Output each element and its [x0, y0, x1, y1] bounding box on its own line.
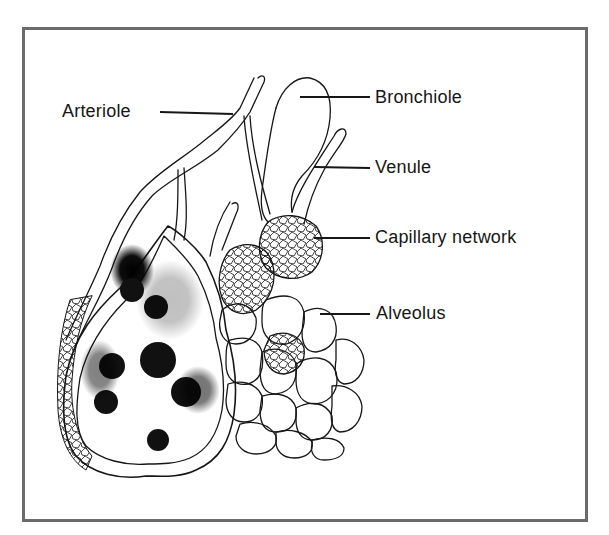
- label-arteriole: Arteriole: [62, 101, 131, 122]
- label-bronchiole: Bronchiole: [375, 87, 462, 108]
- alveolus-illustration: [0, 0, 609, 535]
- alveolar-sacs-dark: [80, 244, 220, 451]
- label-capillary-network: Capillary network: [375, 227, 516, 248]
- leader-arteriole: [160, 112, 233, 114]
- venule-shape: [292, 129, 346, 224]
- label-venule: Venule: [375, 157, 431, 178]
- alveoli-cluster: [220, 296, 364, 460]
- label-alveolus: Alveolus: [376, 303, 446, 324]
- leader-venule: [314, 167, 370, 168]
